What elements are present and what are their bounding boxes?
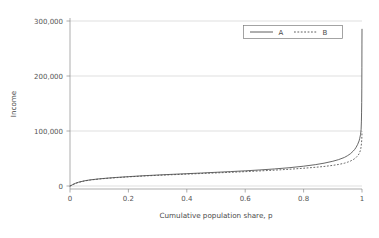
x-tick-label-1: 1 — [360, 195, 364, 203]
x-tick-label-0: 0 — [68, 195, 72, 203]
y-tick-label-300000: 300,000 — [34, 18, 63, 26]
y-tick-label-0: 0 — [59, 183, 63, 191]
legend-label-a: A — [279, 29, 284, 37]
x-axis-title: Cumulative population share, p — [160, 211, 273, 220]
x-tick-label-0.6: 0.6 — [240, 195, 252, 203]
x-tick-label-0.4: 0.4 — [181, 195, 193, 203]
y-tick-label-100000: 100,000 — [34, 128, 63, 136]
income-quantile-chart: 300,000 200,000 100,000 0 0 0.2 0.4 0.6 … — [0, 0, 379, 238]
x-tick-label-0.2: 0.2 — [123, 195, 134, 203]
chart-figure: 300,000 200,000 100,000 0 0 0.2 0.4 0.6 … — [0, 0, 379, 238]
chart-legend[interactable]: A B — [244, 26, 343, 39]
y-axis-title: Income — [9, 90, 18, 117]
y-tick-label-200000: 200,000 — [34, 73, 63, 81]
x-tick-label-0.8: 0.8 — [298, 195, 309, 203]
legend-label-b: B — [323, 29, 328, 37]
